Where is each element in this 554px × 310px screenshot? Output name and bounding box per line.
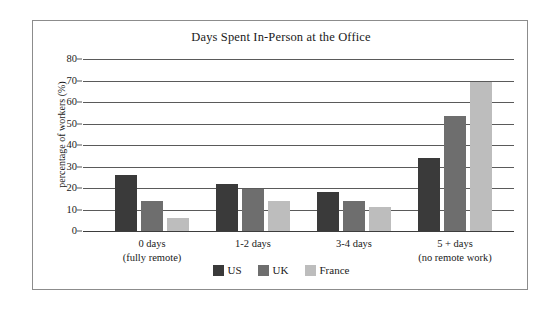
y-tick-label-60: 60 — [67, 97, 78, 108]
legend-item-france[interactable]: France — [305, 264, 350, 276]
bar-group-3 — [317, 59, 391, 231]
chart-figure-frame: Days Spent In-Person at the Office perce… — [32, 20, 528, 290]
y-tick-mark-80 — [77, 59, 82, 60]
chart-title: Days Spent In-Person at the Office — [33, 30, 529, 45]
bar-france-3 — [369, 207, 391, 231]
y-tick-label-50: 50 — [67, 118, 78, 129]
y-tick-label-70: 70 — [67, 75, 78, 86]
y-tick-mark-60 — [77, 102, 82, 103]
legend-swatch-france — [305, 265, 316, 276]
y-tick-label-10: 10 — [67, 204, 78, 215]
bar-uk-3 — [343, 201, 365, 231]
bar-us-1 — [115, 175, 137, 231]
bar-group-1 — [115, 59, 189, 231]
legend-label-uk: UK — [273, 264, 289, 276]
legend-swatch-uk — [258, 265, 269, 276]
bar-us-3 — [317, 192, 339, 231]
y-tick-mark-40 — [77, 145, 82, 146]
legend-swatch-us — [213, 265, 224, 276]
x-axis-label-4: 5 + days(no remote work) — [380, 237, 530, 264]
legend-label-france: France — [320, 264, 350, 276]
bar-france-1 — [167, 218, 189, 231]
y-tick-mark-30 — [77, 166, 82, 167]
x-axis-label-line2: (no remote work) — [380, 251, 530, 265]
y-tick-mark-0 — [77, 231, 82, 232]
bar-us-4 — [418, 158, 440, 231]
y-tick-mark-10 — [77, 209, 82, 210]
x-axis-label-line1: 1-2 days — [235, 238, 271, 249]
chart-legend: USUKFrance — [33, 264, 529, 276]
bars-group — [83, 59, 514, 231]
legend-item-us[interactable]: US — [213, 264, 242, 276]
y-tick-label-40: 40 — [67, 140, 78, 151]
bar-france-4 — [470, 82, 492, 231]
bar-uk-2 — [242, 189, 264, 231]
y-tick-label-0: 0 — [72, 226, 77, 237]
legend-item-uk[interactable]: UK — [258, 264, 289, 276]
y-tick-label-30: 30 — [67, 161, 78, 172]
x-axis-label-line1: 0 days — [138, 238, 165, 249]
legend-label-us: US — [228, 264, 242, 276]
x-axis-label-line1: 3-4 days — [336, 238, 372, 249]
y-tick-label-20: 20 — [67, 183, 78, 194]
bar-us-2 — [216, 184, 238, 231]
y-tick-mark-20 — [77, 188, 82, 189]
bar-group-4 — [418, 59, 492, 231]
y-tick-mark-70 — [77, 80, 82, 81]
x-axis-label-line2: (fully remote) — [77, 251, 227, 265]
y-axis-title: percentage of workers (%) — [56, 60, 67, 210]
gridline-0 — [83, 231, 514, 232]
bar-group-2 — [216, 59, 290, 231]
bar-uk-1 — [141, 201, 163, 231]
x-axis-label-line1: 5 + days — [437, 238, 473, 249]
y-tick-mark-50 — [77, 123, 82, 124]
bar-france-2 — [268, 201, 290, 231]
plot-area: 01020304050607080 0 days(fully remote)1-… — [83, 59, 514, 231]
bar-uk-4 — [444, 116, 466, 231]
y-tick-label-80: 80 — [67, 54, 78, 65]
